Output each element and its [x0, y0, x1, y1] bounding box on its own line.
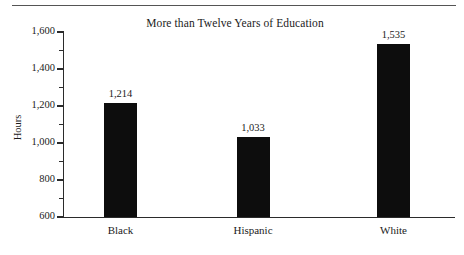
y-tick-major	[57, 105, 64, 106]
y-tick-minor	[59, 50, 64, 51]
bar-value-label: 1,535	[364, 29, 424, 40]
y-tick-label: 1,400	[15, 62, 55, 73]
chart-title: More than Twelve Years of Education	[70, 17, 400, 29]
x-axis-line	[63, 217, 455, 218]
top-divider-rule	[12, 5, 456, 6]
y-tick-label: 1,000	[15, 136, 55, 147]
y-tick-major	[57, 142, 64, 143]
y-tick-label: 800	[15, 173, 55, 184]
bar-value-label: 1,214	[91, 88, 151, 99]
chart-figure: More than Twelve Years of Education Hour…	[0, 0, 464, 255]
category-label-black: Black	[76, 224, 166, 236]
y-tick-label: 1,200	[15, 99, 55, 110]
y-tick-label: 1,600	[15, 25, 55, 36]
y-tick-minor	[59, 198, 64, 199]
category-label-hispanic: Hispanic	[208, 224, 298, 236]
y-tick-major	[57, 179, 64, 180]
y-tick-label: 600	[15, 210, 55, 221]
bar-hispanic	[237, 137, 270, 217]
category-label-white: White	[349, 224, 439, 236]
bar-black	[104, 103, 137, 217]
bar-white	[377, 44, 410, 217]
y-tick-minor	[59, 124, 64, 125]
y-tick-minor	[59, 161, 64, 162]
y-tick-major	[57, 31, 64, 32]
y-tick-major	[57, 216, 64, 217]
y-tick-minor	[59, 87, 64, 88]
bar-value-label: 1,033	[223, 122, 283, 133]
y-tick-major	[57, 68, 64, 69]
